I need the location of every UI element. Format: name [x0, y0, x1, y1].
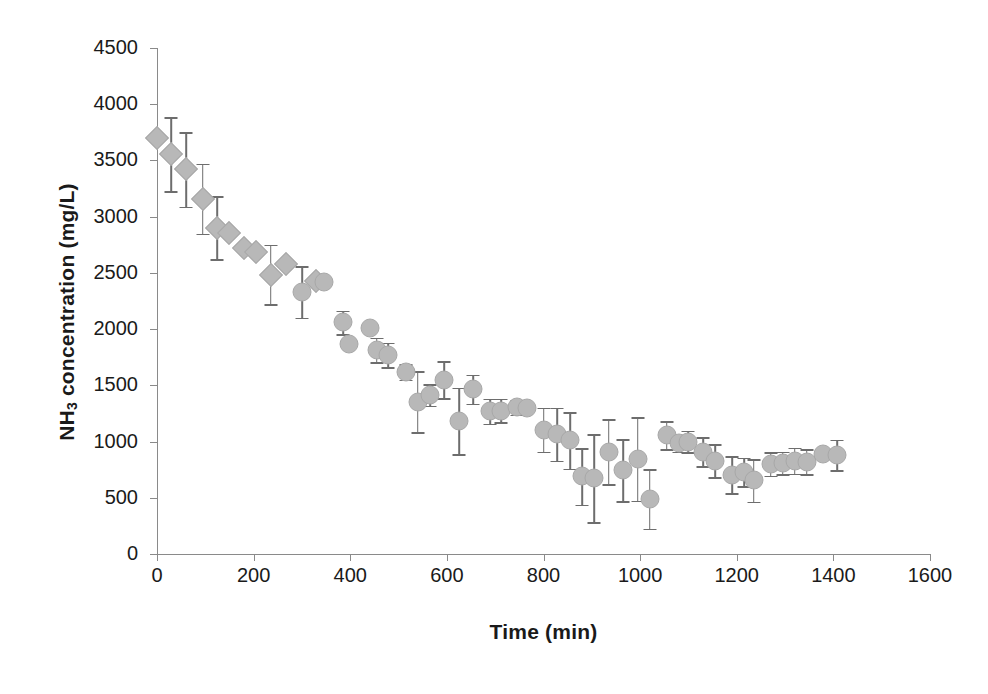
- y-tick-label: 4000: [94, 92, 139, 115]
- data-point: [517, 398, 536, 417]
- y-tick: [150, 554, 157, 555]
- error-bar-cap: [452, 454, 465, 456]
- x-tick-label: 1600: [908, 564, 953, 587]
- error-bar-cap: [725, 456, 738, 458]
- data-point: [435, 370, 454, 389]
- x-tick: [930, 554, 931, 561]
- error-bar-cap: [576, 505, 589, 507]
- error-bar-cap: [709, 477, 722, 479]
- y-tick: [150, 442, 157, 443]
- error-bar-cap: [537, 408, 550, 410]
- error-bar-cap: [467, 375, 480, 377]
- y-tick-label: 3000: [94, 205, 139, 228]
- data-point: [464, 380, 483, 399]
- error-bar-cap: [494, 422, 507, 424]
- error-bar-cap: [602, 419, 615, 421]
- y-tick: [150, 104, 157, 105]
- error-bar-cap: [631, 417, 644, 419]
- error-bar-cap: [831, 440, 844, 442]
- error-bar-cap: [196, 234, 209, 236]
- data-point: [396, 362, 415, 381]
- error-bar-cap: [831, 470, 844, 472]
- error-bar-cap: [747, 502, 760, 504]
- y-tick-label: 2500: [94, 261, 139, 284]
- error-bar-cap: [696, 437, 709, 439]
- error-bar-cap: [800, 474, 813, 476]
- plot-area: 050010001500200025003000350040004500 020…: [157, 48, 930, 554]
- y-tick-label: 0: [127, 542, 138, 565]
- error-bar-cap: [564, 412, 577, 414]
- error-bar-cap: [788, 448, 801, 450]
- error-bar-cap: [551, 408, 564, 410]
- x-tick: [737, 554, 738, 561]
- data-point: [561, 431, 580, 450]
- data-point: [191, 187, 215, 211]
- error-bar-cap: [165, 117, 178, 119]
- error-bar-cap: [264, 304, 277, 306]
- error-bar-cap: [617, 501, 630, 503]
- error-bar-cap: [438, 361, 451, 363]
- error-bar-cap: [537, 452, 550, 454]
- error-bar-cap: [788, 474, 801, 476]
- data-point: [174, 157, 198, 181]
- error-bar-cap: [196, 164, 209, 166]
- error-bar-cap: [602, 484, 615, 486]
- x-tick-label: 1000: [618, 564, 663, 587]
- error-bar-cap: [643, 469, 656, 471]
- error-bar-cap: [800, 449, 813, 451]
- data-point: [706, 451, 725, 470]
- error-bar-cap: [295, 318, 308, 320]
- y-tick: [150, 329, 157, 330]
- error-bar-cap: [617, 439, 630, 441]
- error-bar-cap: [747, 459, 760, 461]
- data-point: [599, 442, 618, 461]
- y-tick-label: 1500: [94, 373, 139, 396]
- error-bar-cap: [411, 432, 424, 434]
- y-tick: [150, 498, 157, 499]
- y-axis-title-subscript: 3: [64, 402, 80, 410]
- data-point: [449, 411, 468, 430]
- x-tick: [447, 554, 448, 561]
- y-tick-label: 1000: [94, 430, 139, 453]
- error-bar-cap: [438, 398, 451, 400]
- data-point: [314, 272, 333, 291]
- error-bar-cap: [588, 522, 601, 524]
- data-point: [378, 345, 397, 364]
- error-bar-cap: [725, 493, 738, 495]
- error-bar-cap: [576, 448, 589, 450]
- y-tick: [150, 160, 157, 161]
- x-tick-label: 0: [151, 564, 162, 587]
- y-tick: [150, 48, 157, 49]
- error-bar-cap: [764, 476, 777, 478]
- error-bar-cap: [264, 245, 277, 247]
- x-tick: [350, 554, 351, 561]
- y-tick: [150, 217, 157, 218]
- y-axis-title-suffix: concentration (mg/L): [55, 183, 78, 402]
- data-point: [420, 385, 439, 404]
- x-tick: [833, 554, 834, 561]
- data-point: [585, 469, 604, 488]
- error-bar-cap: [660, 421, 673, 423]
- y-axis-line: [157, 48, 158, 554]
- y-tick: [150, 385, 157, 386]
- y-tick-label: 3500: [94, 148, 139, 171]
- y-tick-label: 500: [105, 486, 138, 509]
- data-point: [340, 335, 359, 354]
- x-axis-title: Time (min): [157, 620, 930, 644]
- y-tick-label: 4500: [94, 36, 139, 59]
- x-tick: [640, 554, 641, 561]
- error-bar-cap: [381, 367, 394, 369]
- x-tick-label: 1400: [811, 564, 856, 587]
- error-bar-cap: [370, 338, 383, 340]
- x-tick-label: 400: [334, 564, 367, 587]
- y-axis-title: NH3 concentration (mg/L): [55, 42, 85, 582]
- error-bar-cap: [588, 434, 601, 436]
- chart-figure: NH3 concentration (mg/L) Time (min) 0500…: [0, 0, 988, 694]
- error-bar-cap: [643, 529, 656, 531]
- x-tick: [254, 554, 255, 561]
- x-tick: [544, 554, 545, 561]
- error-bar-cap: [551, 461, 564, 463]
- data-point: [828, 446, 847, 465]
- x-tick-label: 600: [430, 564, 463, 587]
- x-tick-label: 800: [527, 564, 560, 587]
